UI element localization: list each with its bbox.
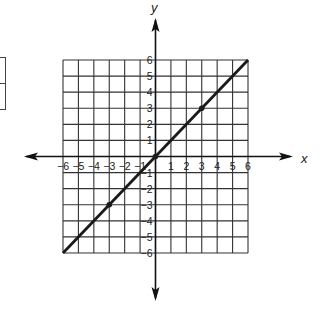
y-tick-label: 6 bbox=[147, 54, 153, 66]
x-tick-label: −6 bbox=[57, 160, 69, 172]
y-tick-label: 5 bbox=[147, 70, 153, 82]
coordinate-plane: −6−5−4−3−2−1123456−6−5−4−3−2−1123456 x y bbox=[0, 0, 326, 314]
y-tick-label: 3 bbox=[147, 102, 153, 114]
x-tick-label: −4 bbox=[88, 160, 100, 172]
data-point-marker bbox=[153, 154, 159, 160]
data-point-marker bbox=[199, 105, 205, 111]
y-tick-label: −2 bbox=[141, 183, 153, 195]
partial-table-cutoff bbox=[0, 57, 6, 110]
y-tick-label: 2 bbox=[147, 118, 153, 130]
x-tick-label: 1 bbox=[168, 160, 174, 172]
x-tick-label: 5 bbox=[230, 160, 236, 172]
x-tick-label: 6 bbox=[245, 160, 251, 172]
x-tick-label: 4 bbox=[214, 160, 220, 172]
coordinate-plane-figure: −6−5−4−3−2−1123456−6−5−4−3−2−1123456 x y bbox=[0, 0, 326, 314]
y-tick-label: −3 bbox=[141, 199, 153, 211]
x-tick-label: 3 bbox=[199, 160, 205, 172]
y-tick-label: −6 bbox=[141, 247, 153, 259]
data-point-marker bbox=[106, 202, 112, 208]
x-tick-label: −5 bbox=[72, 160, 84, 172]
x-axis-label: x bbox=[300, 151, 308, 166]
table-row-divider bbox=[0, 83, 5, 84]
x-tick-label: −2 bbox=[119, 160, 131, 172]
x-tick-label: −3 bbox=[103, 160, 115, 172]
y-tick-label: 1 bbox=[147, 134, 153, 146]
y-tick-label: −5 bbox=[141, 231, 153, 243]
x-tick-label: 2 bbox=[183, 160, 189, 172]
y-tick-label: 4 bbox=[147, 86, 153, 98]
y-axis-label: y bbox=[150, 0, 159, 15]
y-tick-label: −4 bbox=[141, 215, 153, 227]
